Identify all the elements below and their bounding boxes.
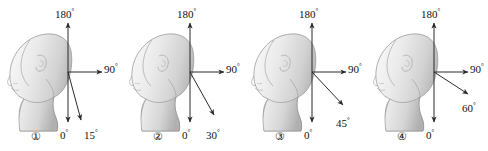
label-0: 0° [304, 130, 312, 141]
label-90: 90° [470, 64, 484, 75]
label-angled: 15° [84, 130, 98, 141]
panel-index-4: ④ [397, 131, 407, 142]
axis-angled-arrow [434, 72, 468, 94]
label-0: 0° [60, 130, 68, 141]
label-angled: 45° [336, 118, 350, 129]
panel-index-2: ② [153, 131, 163, 142]
label-90: 90° [226, 64, 240, 75]
figure-root: 180° 90° 0° 15° ① [0, 0, 488, 151]
head-illustration-1 [8, 34, 72, 131]
label-180: 180° [299, 9, 318, 20]
axis-angled-arrow [68, 72, 81, 120]
panel-index-3: ③ [275, 131, 285, 142]
head-illustration-4 [374, 34, 438, 131]
label-180: 180° [55, 9, 74, 20]
panel-2: 180° 90° 0° 30° ② [122, 0, 244, 151]
label-angled: 30° [206, 130, 220, 141]
axis-angled-arrow [190, 72, 214, 115]
label-angled: 60° [462, 103, 476, 114]
head-illustration-2 [130, 34, 194, 131]
label-90: 90° [348, 64, 362, 75]
panel-3: 180° 90° 0° 45° ③ [244, 0, 366, 151]
label-180: 180° [177, 9, 196, 20]
axis-angled-arrow [312, 72, 343, 105]
label-90: 90° [104, 64, 118, 75]
head-illustration-3 [252, 34, 316, 131]
panel-index-1: ① [31, 131, 41, 142]
label-0: 0° [426, 130, 434, 141]
panel-1: 180° 90° 0° 15° ① [0, 0, 122, 151]
panel-4: 180° 90° 0° 60° ④ [366, 0, 488, 151]
label-0: 0° [182, 130, 190, 141]
label-180: 180° [421, 9, 440, 20]
